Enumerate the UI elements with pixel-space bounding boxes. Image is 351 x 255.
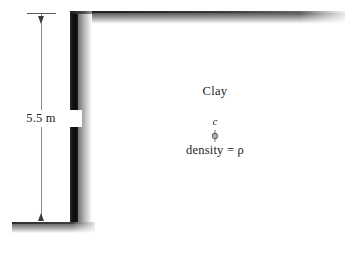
base-ground-line-fade (72, 222, 100, 235)
soil-cohesion-label: c (150, 115, 280, 128)
soil-friction-angle-label: ϕ (150, 129, 280, 142)
soil-density-label: density = ρ (150, 143, 280, 157)
soil-property-block: Clay c ϕ density = ρ (150, 84, 280, 157)
soil-name-label: Clay (150, 84, 280, 98)
vertical-wall-cap (70, 11, 92, 14)
geotechnical-diagram: 5.5 m Clay c ϕ density = ρ (0, 0, 351, 255)
upper-ground-surface-fade (300, 11, 351, 26)
dimension-arrowhead-top-icon (38, 16, 44, 24)
dimension-label: 5.5 m (0, 110, 82, 127)
dimension-arrowhead-bottom-icon (38, 213, 44, 221)
